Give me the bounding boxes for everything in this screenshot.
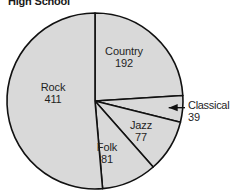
slice-value-folk: 81	[86, 154, 128, 166]
slice-value-rock: 411	[27, 94, 79, 106]
slice-label-folk: Folk 81	[86, 142, 128, 166]
slice-value-country: 192	[94, 58, 154, 70]
slice-value-classical: 39	[188, 112, 234, 124]
pie-chart: High School Rock 411 Country 192 Jazz 77…	[0, 0, 234, 193]
slice-label-classical: Classical 39	[188, 100, 234, 124]
slice-label-rock: Rock 411	[27, 82, 79, 106]
slice-label-jazz: Jazz 77	[120, 120, 162, 144]
slice-label-country: Country 192	[94, 46, 154, 70]
